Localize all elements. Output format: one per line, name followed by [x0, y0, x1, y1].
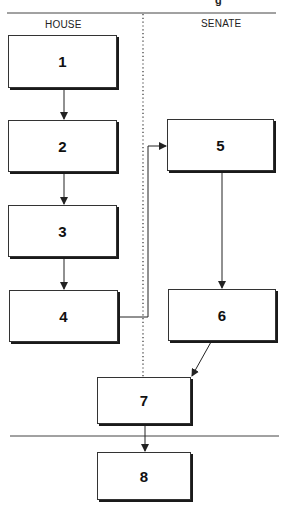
step-box-6: 6 [168, 289, 276, 341]
step-label: 7 [140, 392, 148, 409]
step-box-1: 1 [8, 35, 117, 88]
step-label: 3 [58, 223, 66, 240]
step-label: 8 [140, 468, 148, 485]
house-lane-label: HOUSE [45, 19, 82, 30]
step-label: 2 [58, 138, 66, 155]
header-partial-text: g [215, 0, 222, 6]
legislative-flow-diagram: g HOUSE SENATE 1 2 3 4 5 6 7 8 [0, 0, 294, 509]
step-box-5: 5 [167, 119, 274, 171]
step-label: 1 [58, 53, 66, 70]
step-box-4: 4 [9, 290, 118, 342]
step-label: 6 [218, 307, 226, 324]
senate-lane-label: SENATE [201, 18, 241, 29]
step-label: 4 [59, 308, 67, 325]
step-box-7: 7 [97, 377, 191, 424]
arrow-6-to-7 [192, 342, 211, 376]
step-box-8: 8 [97, 452, 191, 500]
step-box-2: 2 [8, 120, 117, 172]
step-label: 5 [216, 137, 224, 154]
step-box-3: 3 [8, 205, 117, 257]
